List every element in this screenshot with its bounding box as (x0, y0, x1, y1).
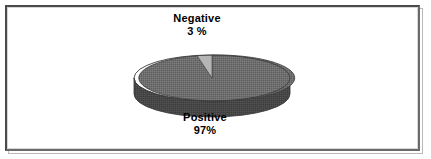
pie-slice-positive[interactable] (139, 55, 295, 101)
pie-label-negative: Negative 3 % (147, 12, 247, 38)
pie-label-negative-value: 3 % (147, 25, 247, 38)
pie-label-negative-name: Negative (147, 12, 247, 25)
pie-label-positive-value: 97% (155, 124, 255, 137)
pie-chart-figure: Negative 3 % Positive 97% (0, 0, 431, 159)
pie-label-positive: Positive 97% (155, 111, 255, 137)
pie-graphic (120, 39, 300, 121)
plot-area: Negative 3 % Positive 97% (7, 7, 418, 149)
pie-label-positive-name: Positive (155, 111, 255, 124)
